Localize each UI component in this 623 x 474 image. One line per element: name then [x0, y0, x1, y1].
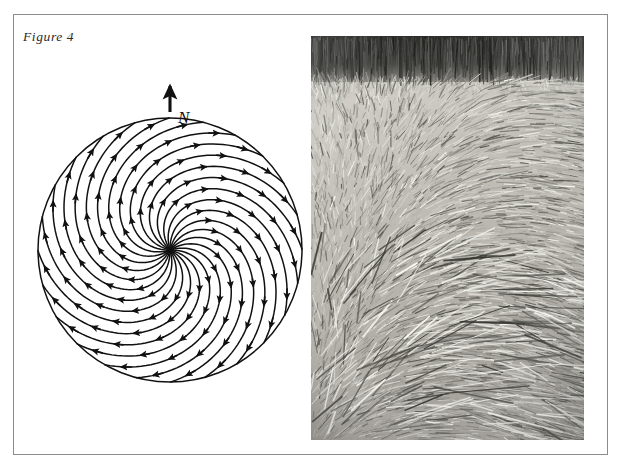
spiral-arrowhead: [241, 299, 242, 307]
spiral-arrowhead: [113, 321, 121, 322]
north-compass-label: N: [178, 108, 189, 128]
spiral-arrowhead: [98, 193, 99, 201]
photograph-canvas: [311, 36, 584, 440]
spiral-arrowhead: [109, 212, 110, 219]
spiral-arrowhead: [264, 296, 265, 306]
spiral-arrowhead: [215, 200, 222, 201]
spiral-diagram-svg: [18, 50, 306, 402]
spiral-arrowhead: [252, 278, 253, 286]
crop-circle-photograph: [311, 36, 584, 440]
spiral-arrowhead: [114, 344, 124, 345]
spiral-arrowhead: [75, 194, 76, 204]
figure-page: Figure 4 N: [0, 0, 623, 474]
spiral-arrowhead: [219, 178, 227, 179]
spiral-arrowhead: [230, 281, 231, 288]
spiral-arrowhead: [133, 332, 141, 333]
figure-caption-label: Figure 4: [23, 29, 74, 45]
spiral-arrowhead: [198, 167, 206, 168]
spiral-arrowhead: [120, 198, 121, 205]
photo-vignette: [311, 36, 584, 440]
spiral-arrowhead: [87, 213, 88, 221]
spiral-arrowhead: [219, 295, 220, 302]
spiral-arrowhead: [118, 299, 125, 300]
spiral-arrowhead: [216, 155, 226, 156]
spiral-diagram-panel: N: [18, 50, 306, 402]
spiral-arrowhead: [132, 310, 139, 311]
spiral-arrowhead: [201, 189, 208, 190]
